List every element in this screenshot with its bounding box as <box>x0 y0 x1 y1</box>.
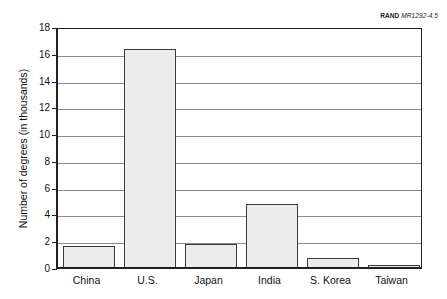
credit-line: RAND MR1292-4.5 <box>380 12 438 19</box>
y-tick-label: 18 <box>20 23 50 33</box>
y-axis-title: Number of degrees (in thousands) <box>14 28 32 269</box>
y-tick-label: 6 <box>20 184 50 194</box>
bar <box>63 246 115 267</box>
figure: RAND MR1292-4.5 Number of degrees (in th… <box>0 0 447 299</box>
x-tick-label: India <box>239 274 300 286</box>
bar <box>307 258 359 267</box>
credit-code: MR1292-4.5 <box>401 12 438 19</box>
x-tick-label: China <box>56 274 117 286</box>
y-tick-label: 14 <box>20 77 50 87</box>
x-tick-label: U.S. <box>117 274 178 286</box>
y-tick-label: 16 <box>20 50 50 60</box>
x-tick-label: Taiwan <box>361 274 422 286</box>
bar <box>246 204 298 267</box>
bar <box>368 265 420 267</box>
y-tick-label: 2 <box>20 237 50 247</box>
y-tick-label: 12 <box>20 103 50 113</box>
y-tick-label: 4 <box>20 210 50 220</box>
x-tick-label: Japan <box>178 274 239 286</box>
bar <box>124 49 176 267</box>
plot-area <box>56 28 422 269</box>
y-tick-mark <box>52 269 57 270</box>
y-tick-label: 8 <box>20 157 50 167</box>
bar-series <box>58 29 421 267</box>
y-tick-label: 10 <box>20 130 50 140</box>
y-tick-label: 0 <box>20 264 50 274</box>
credit-brand: RAND <box>380 12 399 19</box>
x-tick-label: S. Korea <box>300 274 361 286</box>
bar <box>185 244 237 267</box>
